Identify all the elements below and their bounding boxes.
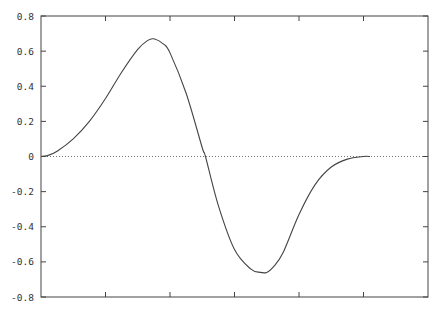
y-tick-label: -0.8 (11, 292, 34, 303)
x-axis (106, 16, 364, 297)
y-tick-label: -0.2 (11, 186, 34, 197)
data-series-curve (41, 39, 370, 273)
y-tick-label: -0.4 (11, 221, 34, 232)
y-tick-label: 0 (28, 151, 34, 162)
line-chart: 0.80.60.40.20-0.2-0.4-0.6-0.8 (0, 0, 438, 313)
y-tick-label: -0.6 (11, 256, 34, 267)
y-tick-label: 0.4 (17, 81, 34, 92)
y-tick-label: 0.6 (17, 46, 34, 57)
y-tick-label: 0.8 (17, 11, 34, 22)
y-tick-label: 0.2 (17, 116, 34, 127)
